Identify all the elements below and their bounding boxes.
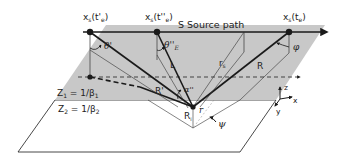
axis-x-label: x	[293, 96, 298, 105]
label-alpha: α''	[184, 85, 194, 94]
label-L: L	[170, 60, 175, 70]
point-xs-prime	[87, 29, 93, 35]
lower-layer-plane	[18, 100, 276, 152]
label-xs-dprime: xs(t''e)	[145, 12, 173, 23]
reflection-geometry-diagram: xs(t'e) xs(t''e) xs(te) S Source path θ'…	[0, 0, 344, 163]
label-xs-prime: xs(t'e)	[83, 12, 108, 23]
label-psi: ψ	[218, 118, 226, 129]
point-xs-dprime	[154, 29, 160, 35]
label-phi: φ	[293, 42, 300, 52]
label-xs-e: xs(te)	[283, 12, 306, 23]
axis-y-label: y	[276, 107, 281, 116]
point-xs-e	[286, 29, 292, 35]
point-projection	[87, 74, 92, 79]
label-R: R	[257, 61, 263, 71]
label-Rprime: R'	[155, 86, 164, 96]
axis-z-label: z	[284, 83, 288, 92]
label-theta-prime: θ'	[104, 41, 112, 51]
label-source-path: S Source path	[178, 19, 244, 30]
point-reflection-vertex	[190, 104, 195, 109]
